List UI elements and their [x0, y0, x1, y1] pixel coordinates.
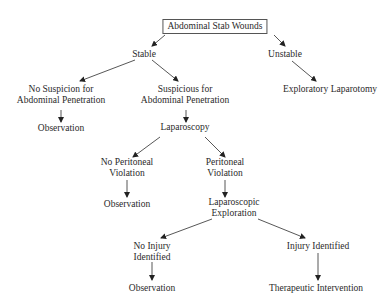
node-label: Violation [206, 168, 245, 179]
edge-laparoscopy-noperitoneal [133, 137, 160, 157]
node-label: Exploratory Laparotomy [283, 84, 377, 95]
node-label: No Suspicion for [17, 84, 105, 95]
edge-stable-nosuspicion [80, 60, 135, 81]
edges-layer [0, 0, 383, 307]
node-observation-2: Observation [104, 199, 150, 210]
node-peritoneal-violation: Peritoneal Violation [206, 157, 245, 179]
node-no-injury-identified: No Injury Identified [133, 241, 170, 263]
node-label: Unstable [268, 49, 302, 60]
node-label: Abdominal Penetration [17, 95, 105, 106]
node-label: Laparoscopic [208, 197, 259, 208]
node-label: Injury Identified [287, 241, 350, 252]
edge-unstable-explap [292, 61, 316, 81]
node-no-suspicion: No Suspicion for Abdominal Penetration [17, 84, 105, 106]
node-injury-identified: Injury Identified [287, 241, 350, 252]
edge-root-unstable [274, 35, 285, 46]
node-abdominal-stab-wounds: Abdominal Stab Wounds [162, 19, 267, 34]
node-label: Exploration [208, 208, 259, 219]
node-therapeutic-intervention: Therapeutic Intervention [269, 283, 363, 294]
node-label: Observation [38, 123, 84, 134]
node-label: Therapeutic Intervention [269, 283, 363, 294]
edge-stable-suspicious [152, 60, 178, 81]
edge-root-stable [152, 35, 165, 46]
node-laparoscopic-exploration: Laparoscopic Exploration [208, 197, 259, 219]
node-label: Suspicious for [141, 84, 229, 95]
node-unstable: Unstable [268, 49, 302, 60]
node-suspicious: Suspicious for Abdominal Penetration [141, 84, 229, 106]
node-label: Abdominal Stab Wounds [167, 21, 262, 32]
node-stable: Stable [132, 49, 156, 60]
node-laparoscopy: Laparoscopy [160, 122, 209, 133]
node-label: No Peritoneal [101, 157, 154, 168]
node-label: Observation [104, 199, 150, 210]
node-no-peritoneal-violation: No Peritoneal Violation [101, 157, 154, 179]
node-label: No Injury [133, 241, 170, 252]
edge-lapexploration-noinjury [161, 219, 212, 238]
node-label: Abdominal Penetration [141, 95, 229, 106]
node-label: Violation [101, 168, 154, 179]
node-label: Observation [129, 283, 175, 294]
node-observation-3: Observation [129, 283, 175, 294]
edge-lapexploration-injury [258, 219, 305, 238]
node-label: Laparoscopy [160, 122, 209, 133]
edge-laparoscopy-peritoneal [205, 137, 225, 157]
node-label: Identified [133, 252, 170, 263]
node-observation-1: Observation [38, 123, 84, 134]
node-exploratory-laparotomy: Exploratory Laparotomy [283, 84, 377, 95]
node-label: Peritoneal [206, 157, 245, 168]
node-label: Stable [132, 49, 156, 60]
